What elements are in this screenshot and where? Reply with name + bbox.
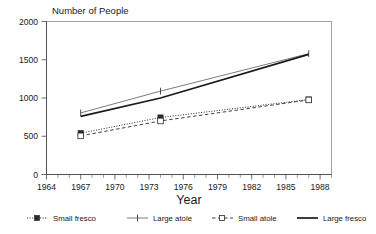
line-chart: Number of People 0 500 1000 1500 2000 [0,0,376,234]
series-large-atole [81,50,309,116]
y-axis-title: Number of People [52,5,129,16]
x-tick-label: 1967 [71,182,90,192]
y-tick-label: 500 [24,131,39,141]
series-line [81,100,309,136]
x-tick-label: 1973 [140,182,159,192]
x-tick-label: 1985 [276,182,295,192]
legend-item-small-fresco[interactable]: Small fresco [27,214,97,223]
y-tick-label: 2000 [19,17,38,27]
legend-item-small-atole[interactable]: Small atole [212,214,277,223]
filled-square-icon [35,216,40,221]
legend-item-large-fresco[interactable]: Large fresco [297,214,367,223]
legend-label: Large atole [153,214,192,223]
y-axis-ticks [42,22,47,175]
x-axis-title: Year [176,193,201,207]
chart-canvas: Number of People 0 500 1000 1500 2000 [0,0,376,234]
x-tick-label: 1988 [311,182,330,192]
y-tick-label: 1000 [19,93,38,103]
x-axis-tick-labels: 1964 1967 1970 1973 1976 1979 1982 1985 … [37,182,330,192]
data-point-open-square [158,118,164,124]
legend-label: Small atole [238,214,277,223]
legend: Small fresco Large atole Small atole Lar… [27,214,367,223]
y-tick-label: 0 [33,170,38,180]
data-point-open-square [78,133,84,139]
series-large-fresco [81,54,309,116]
series-layer [78,50,312,138]
x-tick-label: 1976 [174,182,193,192]
series-line [81,54,309,113]
x-tick-label: 1979 [208,182,227,192]
plot-frame [47,22,332,175]
open-square-icon [220,216,225,221]
x-tick-label: 1970 [105,182,124,192]
x-tick-label: 1964 [37,182,56,192]
legend-label: Small fresco [53,214,97,223]
y-tick-label: 1500 [19,55,38,65]
series-line [81,54,309,116]
x-tick-label: 1982 [242,182,261,192]
legend-label: Large fresco [323,214,367,223]
data-point-open-square [306,97,312,103]
x-axis-ticks [47,175,332,180]
y-axis-tick-labels: 0 500 1000 1500 2000 [19,17,38,180]
legend-item-large-atole[interactable]: Large atole [127,214,192,223]
